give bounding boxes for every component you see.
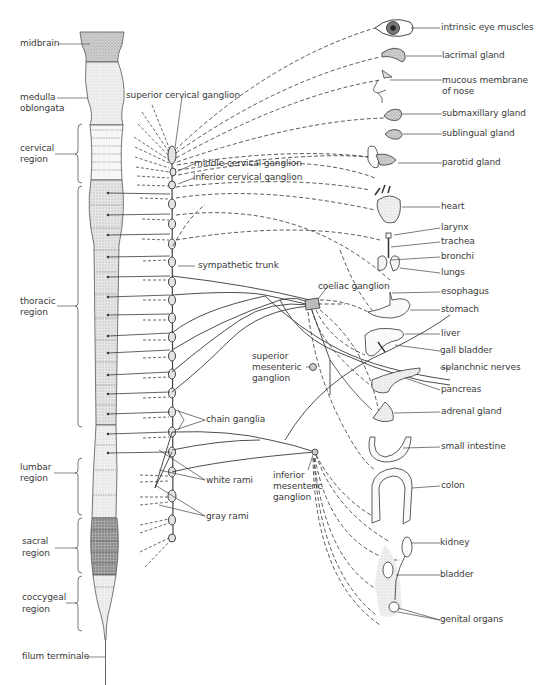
label-sacral-line2: region (22, 548, 50, 559)
label-thoracic-line2: region (20, 307, 48, 318)
thoracic-segment (89, 180, 123, 425)
label-submaxillary-gland: submaxillary gland (442, 108, 526, 119)
label-stomach: stomach (441, 304, 479, 315)
cervical-segment (90, 125, 123, 180)
label-cervical-line1: cervical (20, 143, 54, 154)
label-heart: heart (441, 201, 465, 212)
label-coccygeal-line2: region (22, 604, 50, 615)
adrenal-gland-organ (373, 402, 393, 422)
respiratory-organ (378, 233, 399, 271)
label-adrenal-gland: adrenal gland (441, 406, 502, 417)
label-superior-mesenteric-line2: mesenteric (252, 362, 301, 373)
label-lungs: lungs (441, 267, 465, 278)
pelvic-organs (375, 537, 412, 617)
label-medulla-line1: medulla (20, 92, 56, 103)
label-trachea: trachea (441, 236, 475, 247)
label-kidney: kidney (440, 537, 469, 548)
submaxillary-gland-organ (384, 109, 402, 120)
label-midbrain: midbrain (20, 38, 59, 49)
coccygeal-segment (93, 575, 116, 640)
sublingual-gland-organ (385, 130, 402, 140)
coeliac-ganglion (305, 298, 320, 310)
label-pancreas: pancreas (441, 384, 481, 395)
colon-organ (372, 468, 412, 524)
sympathetic-nervous-system-diagram (0, 0, 541, 685)
label-colon: colon (441, 480, 465, 491)
label-superior-mesenteric-line3: ganglion (252, 373, 290, 384)
eye-organ (375, 20, 413, 37)
inferior-mesenteric-ganglion (312, 449, 318, 455)
label-thoracic-line1: thoracic (20, 296, 56, 307)
label-sympathetic-trunk: sympathetic trunk (198, 260, 279, 271)
label-superior-cervical-ganglion: superior cervical ganglion (126, 90, 240, 101)
label-superior-mesenteric-line1: superior (252, 351, 288, 362)
label-bronchi: bronchi (441, 251, 474, 262)
label-inferior-mesenteric-line3: ganglion (273, 492, 311, 503)
label-liver: liver (441, 328, 460, 339)
label-lumbar-line2: region (20, 473, 48, 484)
heart-organ (375, 185, 400, 223)
nose-organ (374, 70, 393, 103)
sacral-segment (91, 518, 119, 575)
lumbar-segment (92, 425, 117, 518)
label-parotid-gland: parotid gland (442, 157, 501, 168)
liver-organ (365, 328, 404, 356)
small-intestine-organ (369, 437, 411, 462)
label-gall-bladder: gall bladder (440, 345, 492, 356)
label-intrinsic-eye-muscles: intrinsic eye muscles (441, 22, 534, 33)
medulla-shape (85, 62, 124, 125)
label-gray-rami: gray rami (206, 511, 249, 522)
label-cervical-line2: region (20, 154, 48, 165)
label-chain-ganglia: chain ganglia (206, 414, 265, 425)
label-small-intestine: small intestine (441, 441, 506, 452)
label-white-rami: white rami (206, 475, 253, 486)
label-genital-organs: genital organs (440, 614, 503, 625)
label-inferior-mesenteric-line2: mesenteric (273, 481, 322, 492)
lacrimal-gland-organ (382, 48, 405, 62)
label-lacrimal-gland: lacrimal gland (442, 50, 505, 61)
parotid-gland-organ (368, 146, 396, 168)
label-medulla-line2: oblongata (20, 103, 64, 114)
label-coccygeal-line1: coccygeal (22, 592, 66, 603)
label-lumbar-line1: lumbar (20, 462, 51, 473)
label-esophagus: esophagus (441, 286, 489, 297)
superior-mesenteric-ganglion (310, 364, 317, 371)
label-splanchnic-nerves: splanchnic nerves (441, 362, 521, 373)
label-sacral-line1: sacral (22, 536, 48, 547)
label-larynx: larynx (441, 222, 468, 233)
label-coeliac-ganglion: coeliac ganglion (318, 281, 390, 292)
label-bladder: bladder (440, 569, 474, 580)
label-middle-cervical-ganglion: middle cervical ganglion (194, 158, 302, 169)
label-inferior-mesenteric-line1: inferior (273, 470, 305, 481)
stomach-organ (368, 292, 410, 318)
label-mucous-membrane-nose: mucous membrane of nose (442, 75, 537, 97)
region-braces (75, 124, 82, 631)
midbrain-shape (80, 32, 124, 62)
sympathetic-trunk (168, 146, 176, 542)
label-filum-terminale: filum terminale (22, 651, 89, 662)
label-inferior-cervical-ganglion: inferior cervical ganglion (193, 172, 302, 183)
label-sublingual-gland: sublingual gland (442, 128, 515, 139)
